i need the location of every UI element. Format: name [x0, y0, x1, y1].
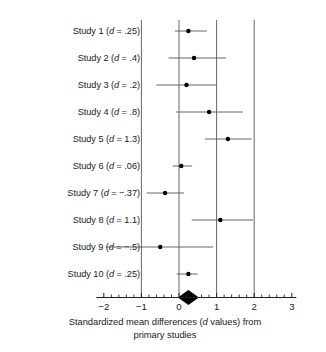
- effect-size-marker: [218, 218, 222, 222]
- forest-row: [106, 245, 214, 249]
- effect-size-marker: [184, 83, 188, 87]
- x-tick-label: 1: [204, 301, 230, 312]
- forest-row: [176, 110, 243, 114]
- x-axis-title-line1-b: values) from: [208, 316, 262, 327]
- effect-size-marker: [179, 164, 183, 168]
- forest-plot-figure: Study 1 (d = .25) Study 2 (d = .4) Study…: [0, 0, 326, 352]
- effect-size-marker: [158, 245, 162, 249]
- forest-row: [173, 164, 193, 168]
- x-tick-label: −1: [128, 301, 154, 312]
- x-axis-title-line1-a: Standardized mean differences (: [69, 316, 203, 327]
- effect-size-marker: [163, 191, 167, 195]
- effect-size-marker: [192, 56, 196, 60]
- forest-row: [192, 218, 253, 222]
- x-tick-label: 2: [241, 301, 267, 312]
- x-tick-label: 3: [279, 301, 305, 312]
- effect-size-marker: [186, 272, 190, 276]
- x-tick-label: 0: [166, 301, 192, 312]
- effect-size-marker: [207, 110, 211, 114]
- x-axis-title-line2: primary studies: [134, 329, 197, 340]
- plot-area: [0, 0, 326, 352]
- forest-row: [175, 29, 207, 33]
- x-tick-label: −2: [91, 301, 117, 312]
- forest-row: [147, 191, 184, 195]
- forest-row: [205, 137, 252, 141]
- effect-size-marker: [186, 29, 190, 33]
- x-axis-title: Standardized mean differences (d values)…: [26, 316, 304, 341]
- effect-size-marker: [226, 137, 230, 141]
- forest-row: [168, 56, 226, 60]
- forest-row: [177, 272, 198, 276]
- forest-row: [156, 83, 216, 87]
